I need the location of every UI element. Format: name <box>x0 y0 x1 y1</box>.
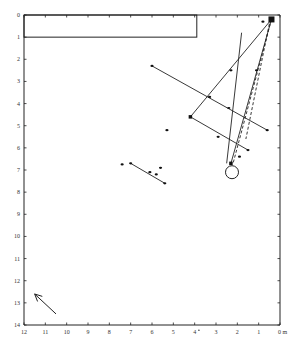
dot-marker <box>266 129 269 131</box>
y-tick-label: 12 <box>14 278 20 284</box>
dot-marker <box>129 162 132 164</box>
y-tick-label: 1 <box>17 34 20 40</box>
dot-marker <box>261 21 264 23</box>
solid-segment <box>152 66 267 130</box>
y-tick-label: 7 <box>17 167 20 173</box>
x-tick-label: 7 <box>129 329 132 335</box>
chart: 1211109876543210 m01234567891011121314 <box>0 0 300 358</box>
y-tick-label: 6 <box>17 145 20 151</box>
axes <box>24 15 280 325</box>
dot-marker <box>246 149 249 151</box>
solid-segment <box>131 163 165 183</box>
y-tick-label: 0 <box>17 12 20 18</box>
x-tick-label: 10 <box>64 329 70 335</box>
dot-marker <box>121 163 124 165</box>
x-tick-label: 3 <box>215 329 218 335</box>
x-tick-label: 6 <box>151 329 154 335</box>
arrow-shaft <box>35 294 56 314</box>
y-tick-label: 4 <box>17 101 20 107</box>
solid-segment <box>190 19 271 116</box>
x-tick-label: 12 <box>21 329 27 335</box>
shapes <box>24 15 271 183</box>
y-tick-label: 13 <box>14 300 20 306</box>
x-tick-label: 2 <box>236 329 239 335</box>
ticks: 1211109876543210 m01234567891011121314 <box>14 12 288 335</box>
dot-marker <box>255 69 258 71</box>
square-marker <box>268 16 274 22</box>
x-tick-label: 1 <box>257 329 260 335</box>
dashed-segment <box>246 24 269 139</box>
dot-marker <box>148 171 151 173</box>
x-tick-label: 9 <box>87 329 90 335</box>
y-tick-label: 11 <box>14 256 20 262</box>
y-tick-label: 14 <box>14 322 20 328</box>
x-tick-label: 11 <box>42 329 48 335</box>
x-tick-label: 5 <box>172 329 175 335</box>
stray-mark <box>198 330 199 331</box>
dot-marker <box>155 173 158 175</box>
dot-marker <box>159 167 162 169</box>
y-tick-label: 9 <box>17 211 20 217</box>
x-tick-label: 4 <box>193 329 196 335</box>
dot-marker <box>229 69 232 71</box>
y-tick-label: 10 <box>14 233 20 239</box>
dot-marker <box>238 156 241 158</box>
x-tick-label: 0 m <box>278 329 288 335</box>
square-marker <box>229 162 233 166</box>
dot-marker <box>208 96 211 98</box>
x-tick-label: 8 <box>108 329 111 335</box>
y-tick-label: 2 <box>17 56 20 62</box>
y-tick-label: 3 <box>17 78 20 84</box>
dot-marker <box>227 107 230 109</box>
y-tick-label: 5 <box>17 123 20 129</box>
y-tick-label: 8 <box>17 189 20 195</box>
dot-marker <box>217 136 220 138</box>
solid-segment <box>227 33 242 164</box>
dot-marker <box>150 65 153 67</box>
circle-marker <box>226 166 239 179</box>
square-marker <box>189 115 193 119</box>
dot-marker <box>165 129 168 131</box>
top-rectangle <box>24 15 197 37</box>
dot-marker <box>163 182 166 184</box>
